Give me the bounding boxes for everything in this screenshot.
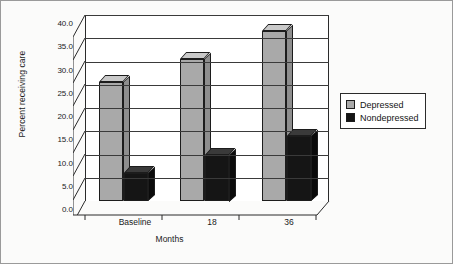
x-axis-label-18: 18	[207, 217, 216, 227]
plot-area	[85, 15, 329, 201]
black-swatch-icon	[346, 113, 355, 122]
bar-depressed	[99, 82, 123, 201]
y-tick-label: 15.0	[33, 135, 73, 144]
gridline	[85, 108, 329, 109]
x-axis-title: Months	[0, 234, 396, 244]
bar-face	[180, 59, 204, 201]
gridline	[85, 155, 329, 156]
bar-side-face	[229, 148, 236, 201]
legend-item-depressed: Depressed	[346, 98, 419, 111]
x-axis-label-36: 36	[284, 217, 293, 227]
y-tick-label: 5.0	[33, 181, 73, 190]
x-axis-label-baseline: Baseline	[119, 217, 152, 227]
y-tick-label: 25.0	[33, 88, 73, 97]
y-axis-tick-labels: 0.05.010.015.020.025.030.035.040.0	[33, 1, 73, 264]
gridline	[85, 178, 329, 179]
y-axis-title: Percent receiving care	[17, 29, 27, 159]
gridline	[85, 15, 329, 16]
y-tick-label: 20.0	[33, 112, 73, 121]
y-tick-label: 0.0	[33, 205, 73, 214]
gridline	[85, 131, 329, 132]
bar-face	[99, 82, 123, 201]
bar-face	[262, 31, 286, 201]
gridline	[85, 85, 329, 86]
y-tick-label: 35.0	[33, 42, 73, 51]
gridline	[85, 38, 329, 39]
bar-side-face	[148, 167, 155, 201]
legend-label-depressed: Depressed	[360, 100, 404, 110]
bar-nondepressed	[287, 136, 311, 201]
bar-side-face	[311, 130, 318, 201]
bar-depressed	[180, 59, 204, 201]
bar-face	[287, 136, 311, 201]
chart-legend: Depressed Nondepressed	[340, 93, 426, 129]
chart-figure: Percent receiving care 0.05.010.015.020.…	[0, 0, 453, 264]
gridline	[85, 62, 329, 63]
legend-item-nondepressed: Nondepressed	[346, 111, 419, 124]
y-tick-label: 30.0	[33, 65, 73, 74]
x-axis	[73, 201, 333, 231]
legend-label-nondepressed: Nondepressed	[360, 113, 419, 123]
bar-depressed	[262, 31, 286, 201]
y-tick-label: 10.0	[33, 158, 73, 167]
y-tick-label: 40.0	[33, 19, 73, 28]
gray-swatch-icon	[346, 100, 355, 109]
